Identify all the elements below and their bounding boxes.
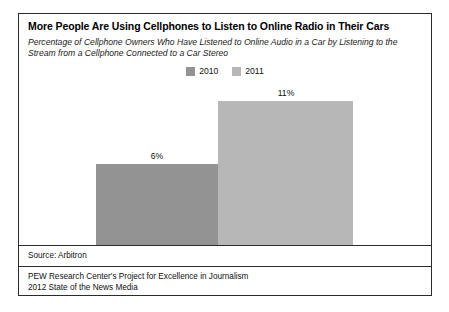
chart-legend: 2010 2011 bbox=[19, 64, 431, 78]
bar-2010 bbox=[96, 164, 218, 245]
legend-item-2011: 2011 bbox=[232, 66, 263, 76]
chart-title: More People Are Using Cellphones to List… bbox=[28, 20, 423, 33]
legend-label-2011: 2011 bbox=[245, 66, 263, 76]
bar-value-label-2011: 11% bbox=[266, 88, 306, 98]
legend-swatch-icon-2010 bbox=[186, 67, 195, 76]
credit-line-1: PEW Research Center's Project for Excell… bbox=[28, 272, 248, 281]
chart-subtitle: Percentage of Cellphone Owners Who Have … bbox=[28, 37, 421, 60]
legend-swatch-icon-2011 bbox=[232, 67, 241, 76]
credit-line-2: 2012 State of the News Media bbox=[28, 283, 138, 292]
legend-label-2010: 2010 bbox=[199, 66, 218, 76]
baseline-divider bbox=[19, 245, 431, 246]
bar-value-label-2010: 6% bbox=[137, 151, 177, 161]
bar-2011 bbox=[218, 101, 353, 245]
legend-item-2010: 2010 bbox=[186, 66, 218, 76]
footer-divider bbox=[19, 266, 431, 267]
chart-figure: More People Are Using Cellphones to List… bbox=[18, 13, 432, 296]
plot-area: 6% 11% bbox=[19, 80, 431, 245]
source-note: Source: Arbitron bbox=[28, 251, 87, 260]
